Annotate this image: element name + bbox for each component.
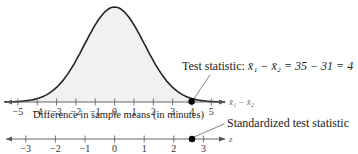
curve-shaded-area — [4, 7, 225, 102]
normal-curve-chart: −5−4−3−2−1012345 x̄₁ − x̄₂ Difference in… — [4, 7, 353, 121]
test-statistic-annotation: Test statistic: x̄₁ − x̄₂ = 35 − 31 = 4 — [182, 59, 353, 73]
test-statistic-prefix: Test statistic: — [182, 59, 248, 73]
standardized-test-statistic-label: Standardized test statistic — [227, 116, 349, 130]
top-axis-caption: Difference in sample means (in minutes) — [33, 109, 204, 121]
hypothesis-test-figure: −5−4−3−2−1012345 x̄₁ − x̄₂ Difference in… — [0, 0, 358, 153]
top-axis-right-arrow-icon — [219, 100, 226, 105]
standardized-test-statistic-point — [189, 136, 195, 142]
top-axis-left-arrow-icon — [6, 100, 12, 105]
bottom-axis-variable-label: z — [228, 134, 233, 144]
standardized-leader-line — [194, 124, 224, 137]
top-axis-tick-label: −5 — [13, 106, 24, 117]
top-axis-tick-label: 5 — [209, 106, 214, 117]
bottom-axis-tick-label: −3 — [20, 143, 31, 154]
bottom-axis-tick-label: 3 — [201, 143, 206, 154]
bottom-axis-left-arrow-icon — [6, 137, 12, 142]
bottom-axis-tick-label: −1 — [80, 143, 91, 154]
bottom-axis-ticks: −3−2−10123 — [20, 136, 205, 154]
top-axis-variable-label: x̄₁ − x̄₂ — [228, 97, 254, 107]
bottom-axis-tick-label: 1 — [142, 143, 147, 154]
test-statistic-expression: x̄₁ − x̄₂ = 35 − 31 = 4 — [247, 59, 353, 73]
test-statistic-leader-line — [193, 75, 210, 100]
test-statistic-point — [188, 98, 194, 104]
bottom-axis-right-arrow-icon — [219, 137, 226, 142]
z-number-line: −3−2−10123 z Standardized test statistic — [6, 116, 349, 153]
bottom-axis-tick-label: −2 — [50, 143, 61, 154]
bottom-axis-tick-label: 2 — [171, 143, 176, 154]
bottom-axis-tick-label: 0 — [112, 143, 117, 154]
